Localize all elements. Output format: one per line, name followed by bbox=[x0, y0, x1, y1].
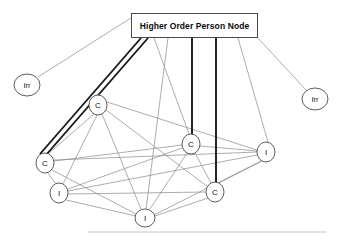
edge-title-to-irr-right bbox=[256, 36, 307, 91]
edge-c-left-to-i-right bbox=[54, 152, 257, 160]
edge-bold-title-to-c-left-outer bbox=[40, 38, 141, 154]
node-irr-left-label: Irr bbox=[23, 81, 31, 90]
edge-c-top-to-i-left bbox=[63, 115, 97, 184]
node-c-bottom[interactable]: C bbox=[206, 182, 224, 202]
node-c-upper-left[interactable]: C bbox=[89, 95, 107, 115]
edge-title-to-i-bottom bbox=[146, 38, 168, 209]
edge-i-right-to-i-left bbox=[68, 155, 257, 191]
edge-c-mid-to-i-left bbox=[68, 148, 182, 189]
node-i-bottom-label: I bbox=[144, 214, 146, 223]
diagram-canvas: IrrIrrCCCIICI Higher Order Person Node bbox=[0, 0, 342, 240]
thin-edges-group bbox=[38, 16, 307, 216]
edge-title-to-irr-left bbox=[38, 16, 134, 77]
edge-i-left-to-c-bottom bbox=[68, 192, 206, 194]
node-irr-left[interactable]: Irr bbox=[14, 74, 40, 96]
edge-title-to-c-mid bbox=[154, 38, 189, 134]
higher-order-person-node-box[interactable]: Higher Order Person Node bbox=[131, 13, 258, 38]
edge-i-right-to-c-bottom bbox=[219, 161, 262, 183]
edge-c-mid-to-c-bottom bbox=[195, 153, 211, 183]
node-irr-right[interactable]: Irr bbox=[302, 88, 328, 110]
node-c-middle[interactable]: C bbox=[182, 134, 200, 154]
nodes-group: IrrIrrCCCIICI bbox=[14, 74, 328, 227]
node-c-upper-left-label: C bbox=[95, 101, 101, 110]
node-i-right-label: I bbox=[265, 148, 267, 157]
node-c-bottom-label: C bbox=[212, 188, 218, 197]
bold-edges-group bbox=[40, 38, 216, 183]
edge-c-mid-to-i-bottom bbox=[150, 153, 187, 209]
edge-c-bottom-to-i-bottom bbox=[155, 198, 208, 216]
node-i-left-label: I bbox=[58, 189, 60, 198]
node-c-left[interactable]: C bbox=[36, 153, 54, 173]
node-irr-right-label: Irr bbox=[311, 95, 319, 104]
edge-c-top-to-i-bottom bbox=[102, 114, 141, 209]
node-i-left[interactable]: I bbox=[50, 183, 68, 203]
edge-title-to-i-right bbox=[238, 38, 268, 142]
node-i-bottom[interactable]: I bbox=[135, 209, 155, 227]
edge-i-left-to-i-bottom bbox=[66, 200, 136, 216]
node-i-right[interactable]: I bbox=[257, 142, 275, 162]
node-c-middle-label: C bbox=[188, 140, 194, 149]
node-c-left-label: C bbox=[42, 159, 48, 168]
edge-c-mid-to-i-right bbox=[200, 146, 257, 151]
edge-c-left-to-i-left bbox=[47, 172, 56, 184]
edge-c-top-to-c-left bbox=[48, 114, 94, 154]
higher-order-person-node-label: Higher Order Person Node bbox=[140, 21, 250, 31]
